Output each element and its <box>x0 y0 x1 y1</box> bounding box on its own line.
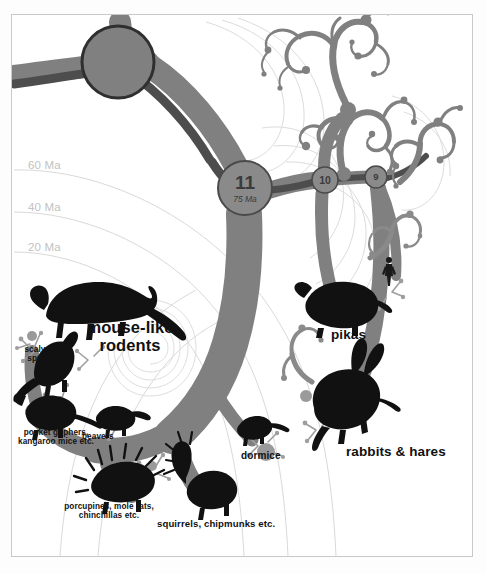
taxon-label-scaly-tails-springhare[interactable]: scaly-tails & springhare <box>10 345 88 363</box>
dormouse-silhouette <box>237 416 289 446</box>
node-11-age: 75 Ma <box>218 194 272 204</box>
node-11-number: 11 <box>218 172 272 194</box>
tree-canvas[interactable] <box>0 0 486 573</box>
squirrel-silhouette <box>164 432 237 520</box>
taxon-label-porcupines-mole-rats-chinchillas[interactable]: porcupines, mole rats, chinchillas etc. <box>54 502 164 520</box>
taxon-label-mouse-like-rodents[interactable]: mouse-like rodents <box>78 318 182 355</box>
node-9-label[interactable]: 9 <box>364 171 388 182</box>
axis-tick-40ma: 40 Ma <box>28 201 61 213</box>
fractal-subtree-rabbit <box>283 328 320 382</box>
tree-of-life-figure: 60 Ma 40 Ma 20 Ma 11 75 Ma 10 9 mouse-li… <box>0 0 486 573</box>
fractal-subtree-mid <box>300 102 415 170</box>
taxon-label-dormice[interactable]: dormice <box>241 450 297 461</box>
hare-silhouette <box>312 338 401 451</box>
node-10-number: 10 <box>311 174 339 186</box>
node-11-label[interactable]: 11 75 Ma <box>218 172 272 204</box>
axis-tick-20ma: 20 Ma <box>28 241 61 253</box>
taxon-label-pikas[interactable]: pikas <box>331 327 387 342</box>
node-9-number: 9 <box>364 171 388 182</box>
node-root[interactable] <box>82 26 154 98</box>
taxon-label-rabbits-hares[interactable]: rabbits & hares <box>346 444 470 459</box>
node-10-label[interactable]: 10 <box>311 174 339 186</box>
taxon-label-squirrels-chipmunks[interactable]: squirrels, chipmunks etc. <box>157 519 297 530</box>
taxon-label-beavers[interactable]: beavers <box>82 432 130 441</box>
axis-tick-60ma: 60 Ma <box>28 159 61 171</box>
